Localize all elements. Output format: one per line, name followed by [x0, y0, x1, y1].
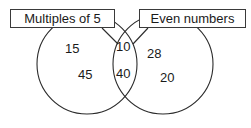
venn-diagram-figure: Multiples of 5 Even numbers 15 45 10 40 … — [0, 0, 251, 128]
intersection-region-value-2: 40 — [116, 67, 130, 81]
left-set-label: Multiples of 5 — [10, 9, 115, 28]
right-set-label: Even numbers — [139, 9, 246, 28]
right-set-circle — [113, 14, 213, 114]
right-label-leader-line — [133, 28, 148, 44]
right-region-value-2: 20 — [160, 71, 174, 85]
right-region-value-1: 28 — [147, 47, 161, 61]
left-region-value-1: 15 — [65, 42, 79, 56]
intersection-region-value-1: 10 — [116, 40, 130, 54]
left-region-value-2: 45 — [78, 68, 92, 82]
left-set-circle — [37, 14, 137, 114]
